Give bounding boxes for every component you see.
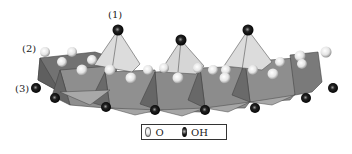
mineral-structure-diagram: (1) (2) (3) O OH bbox=[0, 0, 352, 154]
label-basal-oxygen: (2) bbox=[22, 44, 36, 54]
label-octahedral-oh: (3) bbox=[15, 84, 29, 94]
legend: O OH bbox=[141, 124, 227, 140]
legend-label-o: O bbox=[155, 127, 163, 138]
hydroxyl-sphere-icon bbox=[182, 127, 187, 137]
oxygen-sphere-icon bbox=[145, 127, 151, 137]
label-apical-oh: (1) bbox=[108, 10, 122, 20]
legend-label-oh: OH bbox=[191, 127, 208, 138]
